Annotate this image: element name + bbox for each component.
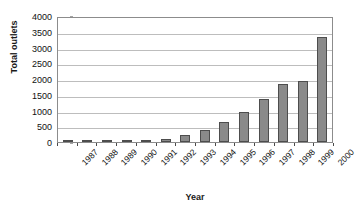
bar	[278, 84, 288, 142]
x-axis-tick-label: 1992	[178, 147, 198, 167]
x-axis-tick-mark	[333, 143, 334, 146]
x-axis-tick-mark	[77, 143, 78, 146]
bar	[200, 130, 210, 142]
bar-slot	[58, 18, 78, 142]
x-axis-tick-label: 1989	[119, 147, 139, 167]
x-axis-tick-label: 1997	[277, 147, 297, 167]
y-axis-tick-label: 1000	[16, 107, 52, 116]
bar-slot	[293, 18, 313, 142]
bar-slot	[97, 18, 117, 142]
bar-slot	[234, 18, 254, 142]
bar-slot	[156, 18, 176, 142]
x-axis-tick-label: 1994	[217, 147, 237, 167]
x-axis-tick-label: 1990	[139, 147, 159, 167]
bar	[63, 140, 73, 142]
bar	[82, 140, 92, 142]
x-axis-tick-mark	[156, 143, 157, 146]
x-axis-tick-label: 2000	[336, 147, 356, 167]
x-axis-tick-mark	[57, 143, 58, 146]
bar	[122, 140, 132, 142]
x-axis-tick-label: 1995	[237, 147, 257, 167]
bar-slot	[254, 18, 274, 142]
bar	[219, 122, 229, 142]
plot-area	[57, 17, 333, 143]
x-axis-tick-mark	[313, 143, 314, 146]
y-axis-tick-label: 2000	[16, 76, 52, 85]
bar-slot	[195, 18, 215, 142]
x-axis-tick-label: 1987	[79, 147, 99, 167]
bar-slot	[273, 18, 293, 142]
x-axis-tick-label: 1999	[316, 147, 336, 167]
y-axis-tick-label: 3500	[16, 28, 52, 37]
x-axis-tick-mark	[254, 143, 255, 146]
x-axis-tick-labels: 1987198819891990199119921993199419951996…	[57, 147, 333, 187]
bar-slot	[175, 18, 195, 142]
x-axis-tick-mark	[234, 143, 235, 146]
y-axis-tick-label: 3000	[16, 44, 52, 53]
x-axis-tick-mark	[116, 143, 117, 146]
bar	[317, 37, 327, 142]
x-axis-tick-mark	[215, 143, 216, 146]
x-axis-tick-label: 1991	[158, 147, 178, 167]
y-axis-tick-label: 500	[16, 123, 52, 132]
x-axis-tick-mark	[136, 143, 137, 146]
bar	[180, 135, 190, 142]
bar	[161, 139, 171, 142]
x-axis-tick-label: 1998	[296, 147, 316, 167]
bar-series	[58, 18, 332, 142]
x-axis-tick-label: 1993	[198, 147, 218, 167]
x-axis-tick-mark	[96, 143, 97, 146]
x-axis-tick-label: 1988	[99, 147, 119, 167]
x-axis-tick-mark	[175, 143, 176, 146]
y-axis-tick-label: 2500	[16, 60, 52, 69]
bar-slot	[78, 18, 98, 142]
bar	[298, 81, 308, 142]
y-axis-tick-label: 4000	[16, 13, 52, 22]
bar-slot	[136, 18, 156, 142]
y-axis-tick-labels: 05001000150020002500300035004000	[16, 17, 52, 143]
x-axis-tick-mark	[274, 143, 275, 146]
bar-slot	[313, 18, 333, 142]
bar	[102, 140, 112, 142]
y-axis-tick-label: 0	[16, 139, 52, 148]
bar	[141, 140, 151, 142]
bar	[239, 112, 249, 142]
bar-slot	[215, 18, 235, 142]
x-axis-tick-label: 1996	[257, 147, 277, 167]
x-axis-title: Year	[57, 192, 333, 202]
bar-slot	[117, 18, 137, 142]
bar	[259, 99, 269, 142]
x-axis-tick-mark	[195, 143, 196, 146]
y-axis-tick-label: 1500	[16, 91, 52, 100]
x-axis-tick-mark	[294, 143, 295, 146]
